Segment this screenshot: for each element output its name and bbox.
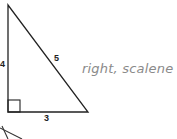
partial-figure-lines — [0, 126, 22, 139]
right-angle-marker — [8, 100, 20, 112]
side-label-bottom: 3 — [44, 114, 49, 123]
side-label-left: 4 — [0, 60, 5, 69]
right-triangle — [8, 5, 88, 112]
side-label-hypotenuse: 5 — [54, 54, 59, 63]
handwritten-annotation: right, scalene — [82, 62, 173, 75]
